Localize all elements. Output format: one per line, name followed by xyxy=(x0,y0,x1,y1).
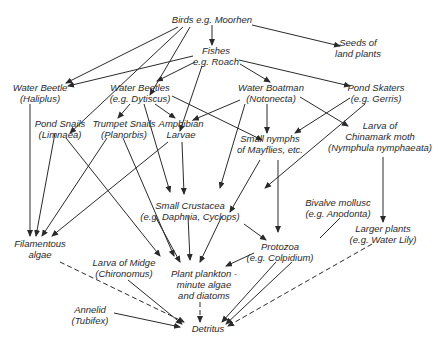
node-label-line: Protozoa xyxy=(246,241,313,252)
node-amphibian-larvae: AmphibianLarvae xyxy=(159,118,204,140)
food-web-diagram: Birds e.g. Moorhen Seeds ofland plants F… xyxy=(0,0,442,348)
node-small-crustacea: Small Crustacea(e.g. Daphnia, Cyclops) xyxy=(140,200,239,222)
node-label-line: (Haliplus) xyxy=(13,93,68,104)
node-label-line: (e.g. Dytiscus) xyxy=(110,93,171,104)
node-small-nymphs: Small nymphsof Mayflies, etc. xyxy=(237,133,303,155)
node-label-line: minute algae xyxy=(171,279,237,290)
node-label-line: Seeds of xyxy=(335,37,381,48)
node-label-line: of Mayflies, etc. xyxy=(237,144,303,155)
node-label-line: (e.g. Water Lily) xyxy=(350,234,417,245)
node-label-line: land plants xyxy=(335,48,381,59)
node-label-line: e.g. Roach xyxy=(193,56,239,67)
node-label-line: algae xyxy=(14,249,66,260)
node-annelid: Annelid(Tubifex) xyxy=(72,304,109,326)
node-label-line: Larva of xyxy=(328,120,432,131)
node-label-line: Pond Snails xyxy=(35,118,86,129)
node-label-line: Chinamark moth xyxy=(328,131,432,142)
node-pond-skaters: Pond Skaters(e.g. Gerris) xyxy=(347,82,404,104)
node-larva-of-midge: Larva of Midge(Chironomus) xyxy=(93,257,156,279)
node-filamentous-algae: Filamentousalgae xyxy=(14,238,66,260)
node-label-line: (e.g. Gerris) xyxy=(347,93,404,104)
node-label-line: (Limnaea) xyxy=(35,129,86,140)
node-label-line: Water Boatman xyxy=(238,82,304,93)
node-label-line: Water Beetles xyxy=(110,82,171,93)
node-label-line: (Chironomus) xyxy=(93,268,156,279)
node-label-line: Pond Skaters xyxy=(347,82,404,93)
node-water-boatman: Water Boatman(Notonecta) xyxy=(238,82,304,104)
node-label-line: Fishes xyxy=(193,45,239,56)
node-chinamark-moth: Larva ofChinamark moth(Nymphula nymphaea… xyxy=(328,120,432,153)
node-label-line: Amphibian xyxy=(159,118,204,129)
node-larger-plants: Larger plants(e.g. Water Lily) xyxy=(350,223,417,245)
node-trumpet-snails: Trumpet Snails(Planorbis) xyxy=(92,118,155,140)
node-label-line: Small nymphs xyxy=(237,133,303,144)
node-label-line: (e.g. Anodonta) xyxy=(305,208,370,219)
node-seeds: Seeds ofland plants xyxy=(335,37,381,59)
node-bivalve: Bivalve mollusc(e.g. Anodonta) xyxy=(305,197,370,219)
node-birds: Birds e.g. Moorhen xyxy=(172,14,252,25)
node-label-line: Larva of Midge xyxy=(93,257,156,268)
node-label-line: Detritus xyxy=(192,323,225,334)
node-water-beetles: Water Beetles(e.g. Dytiscus) xyxy=(110,82,171,104)
node-plant-plankton: Plant plankton -minute algaeand diatoms xyxy=(171,268,237,301)
node-label-line: Annelid xyxy=(72,304,109,315)
node-label-line: (Tubifex) xyxy=(72,315,109,326)
node-label-line: (e.g. Colpidium) xyxy=(246,252,313,263)
node-label-line: Birds e.g. Moorhen xyxy=(172,14,252,25)
node-label-line: (Planorbis) xyxy=(92,129,155,140)
node-fishes: Fishese.g. Roach xyxy=(193,45,239,67)
node-water-beetle: Water Beetle(Haliplus) xyxy=(13,82,68,104)
node-label-line: Larvae xyxy=(159,129,204,140)
node-label-line: Water Beetle xyxy=(13,82,68,93)
node-label-line: (e.g. Daphnia, Cyclops) xyxy=(140,211,239,222)
node-pond-snails: Pond Snails(Limnaea) xyxy=(35,118,86,140)
node-label-line: Small Crustacea xyxy=(140,200,239,211)
node-label-line: Plant plankton - xyxy=(171,268,237,279)
node-label-line: Bivalve mollusc xyxy=(305,197,370,208)
node-label-line: (Nymphula nymphaeata) xyxy=(328,142,432,153)
node-label-line: (Notonecta) xyxy=(238,93,304,104)
node-label-line: Trumpet Snails xyxy=(92,118,155,129)
node-detritus: Detritus xyxy=(192,323,225,334)
node-protozoa: Protozoa(e.g. Colpidium) xyxy=(246,241,313,263)
node-label-line: Filamentous xyxy=(14,238,66,249)
node-label-line: Larger plants xyxy=(350,223,417,234)
node-label-line: and diatoms xyxy=(171,290,237,301)
